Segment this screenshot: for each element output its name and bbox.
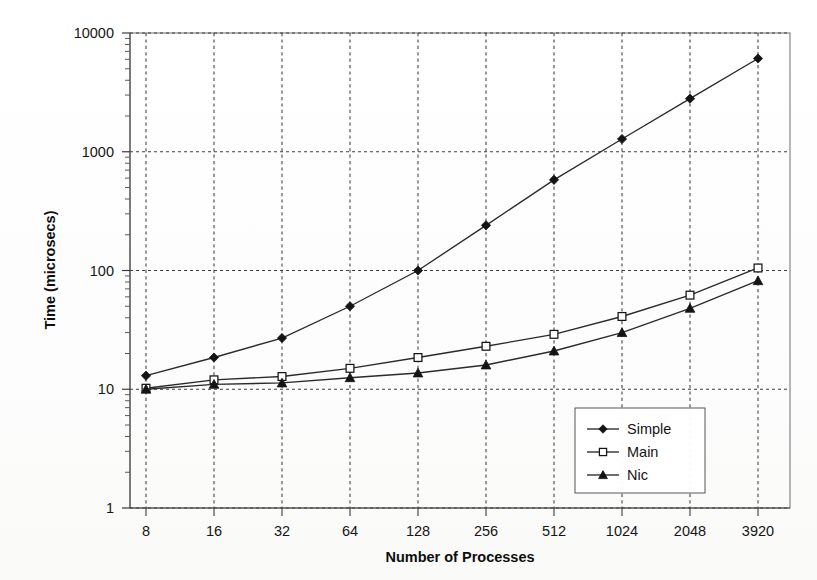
legend-label: Nic [627,467,648,483]
data-point [550,330,558,338]
y-tick-label: 10000 [74,25,114,41]
data-point [617,134,626,143]
x-tick-label: 16 [206,523,222,539]
x-axis-title: Number of Processes [385,549,534,565]
y-axis-minor-ticks [125,38,130,472]
x-axis-ticks [146,508,758,516]
data-point [685,94,694,103]
data-point [686,291,694,299]
legend-label: Simple [627,421,671,437]
data-point [753,54,762,63]
series-line [146,58,758,375]
y-axis-tick-labels: 10000 1000 100 10 1 [74,25,114,516]
x-tick-label: 512 [542,523,566,539]
x-tick-label: 256 [474,523,498,539]
series-simple [141,54,762,380]
data-point [549,175,558,184]
data-point [346,364,354,372]
x-tick-label: 32 [274,523,290,539]
x-tick-label: 8 [142,523,150,539]
legend-marker [599,448,606,455]
x-tick-label: 64 [342,523,358,539]
series-layer [141,54,763,393]
y-tick-label: 1000 [82,144,114,160]
data-point [141,371,150,380]
legend-label: Main [627,444,658,460]
figure-container: 10000 1000 100 10 1 8 16 32 64 128 256 5… [0,0,817,580]
data-point [482,342,490,350]
data-point [413,266,422,275]
legend: SimpleMainNic [575,408,705,493]
line-chart: 10000 1000 100 10 1 8 16 32 64 128 256 5… [0,0,817,580]
data-point [617,328,627,337]
data-point [481,221,490,230]
data-point [618,313,626,321]
data-point [209,353,218,362]
data-point [753,276,763,285]
data-point [277,333,286,342]
x-tick-label: 1024 [606,523,638,539]
y-tick-label: 10 [98,381,114,397]
x-tick-label: 128 [406,523,430,539]
series-line [146,268,758,388]
series-line [146,281,758,390]
y-axis-title: Time (microsecs) [42,210,58,329]
data-point [414,354,422,362]
series-main [142,264,762,392]
y-tick-label: 100 [90,263,114,279]
y-tick-label: 1 [106,500,114,516]
x-tick-label: 3920 [742,523,774,539]
x-tick-label: 2048 [674,523,706,539]
x-axis-tick-labels: 8 16 32 64 128 256 512 1024 2048 3920 [142,523,774,539]
data-point [345,302,354,311]
data-point [685,304,695,313]
data-point [754,264,762,272]
series-nic [141,276,763,393]
